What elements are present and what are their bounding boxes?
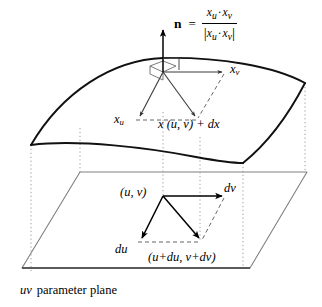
dx-resultant-arrow [163, 72, 195, 116]
label-surface-point: x (u, v) + dx [158, 118, 220, 131]
normal-fraction: xu·xv |xu·xv| [202, 6, 237, 43]
label-xu: xu [114, 113, 124, 127]
label-uv-point: (u, v) [120, 186, 146, 199]
label-xv: xv [230, 63, 239, 77]
label-xu-sub: u [120, 117, 124, 127]
du-vector-arrow [142, 196, 163, 238]
xu-tangent-arrow [140, 72, 163, 116]
equals-sign: = [189, 16, 196, 32]
label-dv: dv [224, 182, 236, 195]
dudv-resultant-arrow [163, 196, 199, 238]
surface-parameter-plane-figure: n = xu·xv |xu·xv| xv xu x (u, v) + dx (u… [0, 0, 322, 307]
fraction-numerator: xu·xv [205, 6, 234, 22]
numerator-xv-sub: v [228, 10, 232, 21]
surface-bottom-curve [31, 143, 243, 163]
label-offset-point: (u+du, v+dv) [148, 251, 216, 264]
label-xv-sub: v [236, 67, 240, 77]
duv-frame-group [138, 196, 224, 242]
abs-bar-close: | [232, 25, 235, 41]
tangent-frame-group [136, 30, 224, 120]
fraction-rule [202, 23, 237, 24]
fraction-denominator: |xu·xv| [202, 25, 237, 43]
surface-patch [31, 58, 305, 163]
caption-text: parameter plane [37, 283, 117, 297]
surface-right-edge [243, 83, 305, 163]
caption-uv-symbol: uv [20, 283, 32, 297]
surface-top-curve [31, 58, 305, 145]
label-du: du [115, 243, 128, 256]
tangent-plane-side [150, 66, 163, 80]
normal-vector-formula: n = xu·xv |xu·xv| [174, 6, 237, 43]
figure-caption: uvparameter plane [20, 283, 117, 298]
plane-dashed-diagonal [202, 198, 224, 240]
surface-dashed-diagonal [198, 74, 224, 118]
normal-symbol: n [174, 16, 182, 32]
